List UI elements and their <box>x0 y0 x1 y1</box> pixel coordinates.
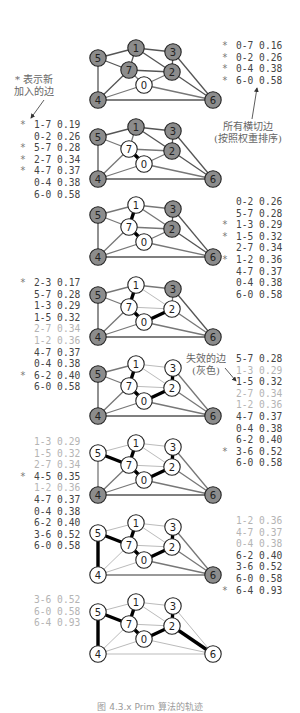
vertex-7: 7 <box>121 378 137 394</box>
edge-list-row: 6-0 0.58 <box>20 540 80 552</box>
edge-list-row: 6-0 0.58 <box>20 606 80 618</box>
vertex-1: 1 <box>128 594 144 610</box>
edge-weight-text: 6-0 0.58 <box>34 606 80 617</box>
edge-weight-text: 1-5 0.32 <box>236 231 282 242</box>
vertex-7: 7 <box>121 62 137 78</box>
vertex-3: 3 <box>165 201 181 217</box>
svg-text:2: 2 <box>169 224 175 235</box>
edge-list-row: 3-6 0.52 <box>20 594 80 606</box>
vertex-2: 2 <box>164 380 180 396</box>
edge-weight-text: 4-7 0.37 <box>34 347 80 358</box>
edge-list-row: 1-3 0.29 <box>20 300 80 312</box>
edge-list-row: *0-7 0.16 <box>222 40 282 52</box>
svg-text:5: 5 <box>95 369 101 380</box>
vertex-4: 4 <box>90 171 106 187</box>
edge-list-row: *1-2 0.36 <box>222 254 282 266</box>
edge-weight-text: 6-0 0.58 <box>236 75 282 86</box>
svg-text:4: 4 <box>95 649 101 660</box>
vertex-0: 0 <box>136 314 152 330</box>
edge-list-row: 2-7 0.34 <box>222 242 282 254</box>
new-edge-marker: * <box>222 52 236 64</box>
edge-list-row: 3-6 0.52 <box>20 529 80 541</box>
svg-text:6: 6 <box>210 252 216 263</box>
vertex-7: 7 <box>121 219 137 235</box>
vertex-5: 5 <box>90 50 106 66</box>
edge-weight-text: 2-3 0.17 <box>34 277 80 288</box>
edge-weight-text: 0-4 0.38 <box>34 358 80 369</box>
vertex-3: 3 <box>165 519 181 535</box>
svg-text:5: 5 <box>95 290 101 301</box>
edge-list-row: 6-0 0.58 <box>222 573 282 585</box>
edge-weight-text: 0-4 0.38 <box>236 538 282 549</box>
vertex-1: 1 <box>128 197 144 213</box>
svg-text:7: 7 <box>126 65 132 76</box>
svg-text:0: 0 <box>141 634 147 645</box>
new-edge-marker: * <box>222 446 236 458</box>
edge-list-row: *2-3 0.17 <box>20 277 80 289</box>
edge-list-row: 6-2 0.40 <box>20 517 80 529</box>
edge-weight-text: 3-6 0.52 <box>236 561 282 572</box>
edge-list-row: 3-6 0.52 <box>222 561 282 573</box>
svg-text:3: 3 <box>170 601 176 612</box>
graph-step-7: 01234567 <box>90 515 221 583</box>
edge-weight-text: 0-2 0.26 <box>34 131 80 142</box>
edge-list-row: *1-5 0.32 <box>222 231 282 243</box>
new-edge-marker: * <box>222 585 236 597</box>
edge-list-step-5: 5-7 0.281-3 0.291-5 0.322-7 0.341-2 0.36… <box>222 353 282 469</box>
svg-text:0: 0 <box>141 80 147 91</box>
edge-list-row: 0-4 0.38 <box>222 277 282 289</box>
star-legend-note: * 表示新 加入的边 <box>14 74 54 98</box>
new-edge-marker: * <box>20 165 34 177</box>
edge-weight-text: 6-2 0.40 <box>236 550 282 561</box>
edge-list-row: 1-2 0.36 <box>222 399 282 411</box>
svg-text:2: 2 <box>169 462 175 473</box>
vertex-1: 1 <box>128 119 144 135</box>
vertex-5: 5 <box>90 287 106 303</box>
svg-text:1: 1 <box>133 359 139 370</box>
svg-text:7: 7 <box>126 302 132 313</box>
edge-weight-text: 0-2 0.26 <box>236 196 282 207</box>
vertex-2: 2 <box>164 539 180 555</box>
svg-text:3: 3 <box>170 522 176 533</box>
edge-weight-text: 1-5 0.32 <box>34 448 80 459</box>
svg-text:5: 5 <box>95 210 101 221</box>
svg-text:4: 4 <box>95 332 101 343</box>
svg-text:2: 2 <box>169 621 175 632</box>
vertex-7: 7 <box>121 299 137 315</box>
svg-text:3: 3 <box>170 284 176 295</box>
edge-list-row: *6-2 0.40 <box>20 370 80 382</box>
edge-list-row: 6-2 0.40 <box>222 434 282 446</box>
new-edge-marker: * <box>20 277 34 289</box>
edge-weight-text: 6-2 0.40 <box>34 370 80 381</box>
graph-step-1: 01234567 <box>90 40 221 108</box>
vertex-2: 2 <box>164 459 180 475</box>
svg-text:5: 5 <box>95 528 101 539</box>
edge-list-row: *4-7 0.37 <box>20 165 80 177</box>
edge-weight-text: 2-7 0.34 <box>34 154 80 165</box>
svg-text:1: 1 <box>133 438 139 449</box>
svg-text:0: 0 <box>141 396 147 407</box>
ineligible-edges-note: 失效的边 (灰色) <box>186 353 226 377</box>
svg-text:0: 0 <box>141 475 147 486</box>
svg-text:4: 4 <box>95 570 101 581</box>
edge-weight-text: 1-2 0.36 <box>236 515 282 526</box>
edge-list-row: *0-2 0.26 <box>222 52 282 64</box>
edge-weight-text: 6-2 0.40 <box>236 434 282 445</box>
edge-weight-text: 1-2 0.36 <box>236 399 282 410</box>
edge-weight-text: 6-0 0.58 <box>236 573 282 584</box>
vertex-4: 4 <box>90 487 106 503</box>
svg-text:5: 5 <box>95 132 101 143</box>
edge-list-row: 1-5 0.32 <box>222 376 282 388</box>
svg-text:4: 4 <box>95 174 101 185</box>
new-edge-marker: * <box>20 370 34 382</box>
svg-text:2: 2 <box>169 542 175 553</box>
new-edge-marker: * <box>20 119 34 131</box>
vertex-4: 4 <box>90 249 106 265</box>
edge-list-row: *3-6 0.52 <box>222 446 282 458</box>
edge-weight-text: 5-7 0.28 <box>236 208 282 219</box>
svg-text:1: 1 <box>133 43 139 54</box>
svg-text:0: 0 <box>141 159 147 170</box>
edge-list-step-8: 3-6 0.526-0 0.586-4 0.93 <box>20 594 80 629</box>
vertex-0: 0 <box>136 393 152 409</box>
edge-weight-text: 3-6 0.52 <box>34 529 80 540</box>
